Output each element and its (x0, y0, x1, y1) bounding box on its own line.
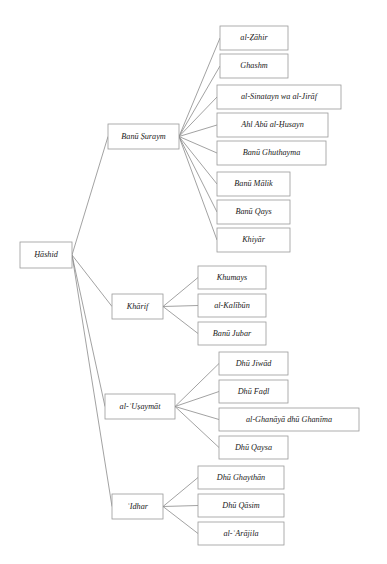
node-khumays[interactable]: Khumays (198, 266, 266, 289)
node-dhu-ghaythan-label: Dhū Ghaythān (216, 473, 265, 482)
genealogy-diagram: ḤāshidBanū Ṣuraymal-ẒāhirGhashmal-Sinata… (0, 0, 387, 564)
node-al-zahir[interactable]: al-Ẓāhir (220, 26, 288, 50)
edge-al-usaymat-to-dhu-fadl (175, 392, 219, 407)
node-banu-qays-label: Banū Qays (235, 207, 271, 216)
node-al-arajila-label: al-ʿArājila (223, 529, 258, 538)
edge-banu-suraym-to-al-zahir (179, 38, 220, 137)
edge-banu-suraym-to-khiyar (179, 137, 217, 241)
node-banu-suraym[interactable]: Banū Ṣuraym (108, 124, 179, 149)
node-al-sinatayn-wa-al-jiraf-label: al-Sinatayn wa al-Jirāf (241, 92, 319, 101)
node-kharif-label: Khārif (126, 302, 150, 311)
node-khiyar-label: Khiyār (241, 235, 266, 244)
node-banu-jubar[interactable]: Banū Jubar (198, 322, 266, 345)
node-al-sinatayn-wa-al-jiraf[interactable]: al-Sinatayn wa al-Jirāf (217, 85, 341, 109)
edge-idhar-to-dhu-ghaythan (163, 478, 198, 507)
node-banu-ghuthayma-label: Banū Ghuthayma (243, 148, 301, 157)
edge-banu-suraym-to-banu-qays (179, 137, 217, 213)
node-ahl-abu-al-husayn-label: Ahl Abū al-Ḥusayn (240, 120, 304, 129)
node-dhu-qasim[interactable]: Dhū Qāsim (198, 494, 284, 517)
node-ahl-abu-al-husayn[interactable]: Ahl Abū al-Ḥusayn (217, 113, 328, 137)
edge-kharif-to-banu-jubar (163, 307, 198, 334)
node-al-arajila[interactable]: al-ʿArājila (198, 522, 284, 545)
edge-al-usaymat-to-dhu-jiwad (175, 364, 219, 407)
node-dhu-jiwad-label: Dhū Jiwād (235, 359, 273, 368)
node-dhu-qasim-label: Dhū Qāsim (221, 501, 260, 510)
node-banu-suraym-label: Banū Ṣuraym (121, 132, 165, 141)
node-hashid[interactable]: Ḥāshid (20, 242, 72, 268)
node-dhu-jiwad[interactable]: Dhū Jiwād (219, 352, 288, 375)
node-idhar-label: ʿIdhar (127, 502, 149, 511)
node-dhu-qaysa-label: Dhū Qaysa (234, 443, 272, 452)
node-dhu-ghaythan[interactable]: Dhū Ghaythān (198, 466, 284, 489)
node-al-kalibun-label: al-Kalībūn (214, 301, 249, 310)
edge-banu-suraym-to-banu-ghuthayma (179, 137, 217, 154)
edge-kharif-to-al-kalibun (163, 306, 198, 307)
node-khiyar[interactable]: Khiyār (217, 228, 290, 252)
node-banu-malik[interactable]: Banū Mālik (217, 172, 290, 196)
node-al-ghanaya-dhu-ghanima[interactable]: al-Ghanāyā dhū Ghanīma (219, 408, 359, 431)
node-khumays-label: Khumays (216, 273, 247, 282)
edge-kharif-to-khumays (163, 278, 198, 307)
node-ghashm[interactable]: Ghashm (220, 54, 288, 78)
node-dhu-qaysa[interactable]: Dhū Qaysa (219, 436, 288, 459)
node-al-kalibun[interactable]: al-Kalībūn (198, 294, 266, 317)
tree-svg: ḤāshidBanū Ṣuraymal-ẒāhirGhashmal-Sinata… (0, 0, 387, 564)
nodes-layer: ḤāshidBanū Ṣuraymal-ẒāhirGhashmal-Sinata… (20, 26, 359, 545)
node-kharif[interactable]: Khārif (112, 294, 163, 319)
node-dhu-fadl-label: Dhū Faḍl (237, 387, 270, 396)
node-al-ghanaya-dhu-ghanima-label: al-Ghanāyā dhū Ghanīma (246, 415, 332, 424)
node-al-zahir-label: al-Ẓāhir (240, 33, 268, 42)
node-dhu-fadl[interactable]: Dhū Faḍl (219, 380, 288, 403)
node-hashid-label: Ḥāshid (33, 250, 59, 259)
node-banu-qays[interactable]: Banū Qays (217, 200, 290, 224)
edge-root-to-banu-suraym (72, 137, 108, 256)
edge-root-to-idhar (72, 255, 112, 507)
node-banu-malik-label: Banū Mālik (234, 179, 273, 188)
node-banu-jubar-label: Banū Jubar (213, 329, 252, 338)
node-al-usaymat-label: al-ʿUṣaymāt (120, 402, 162, 411)
edge-idhar-to-dhu-qasim (163, 506, 198, 507)
edge-root-to-al-usaymat (72, 255, 105, 407)
node-ghashm-label: Ghashm (240, 61, 267, 70)
edge-idhar-to-al-arajila (163, 507, 198, 534)
node-banu-ghuthayma[interactable]: Banū Ghuthayma (217, 141, 326, 165)
edge-banu-suraym-to-banu-malik (179, 137, 217, 185)
node-al-usaymat[interactable]: al-ʿUṣaymāt (105, 394, 175, 419)
node-idhar[interactable]: ʿIdhar (112, 494, 163, 519)
